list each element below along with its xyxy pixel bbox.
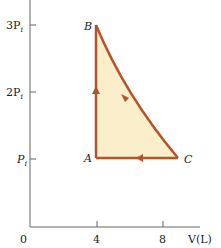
x-label-8: 8 [159,233,166,246]
y-label-2pi: 2Pi [6,86,23,101]
y-label-pi: Pi [16,153,27,168]
point-label-a: A [83,152,92,165]
point-label-b: B [83,20,92,33]
origin-label: 0 [20,233,27,246]
cycle-area [96,25,178,158]
y-label-3pi: 3Pi [6,19,23,34]
point-label-c: C [184,153,193,166]
pv-diagram: 3Pi 2Pi Pi 0 4 8 V(L) B A C [0,0,221,248]
x-label-4: 4 [93,233,100,246]
x-axis-title: V(L) [187,233,212,246]
